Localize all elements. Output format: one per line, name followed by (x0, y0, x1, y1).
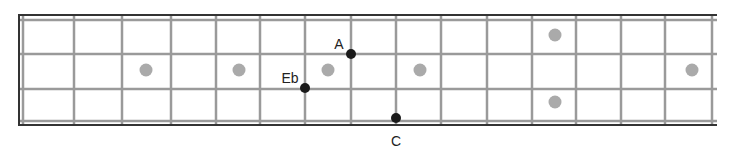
inlay-dot-icon (414, 64, 427, 77)
note-a: A (334, 36, 356, 59)
note-dot-icon (391, 113, 401, 123)
inlay-dot-icon (322, 64, 335, 77)
note-label: A (334, 36, 344, 52)
fret-lines (23, 15, 712, 125)
note-dot-icon (300, 83, 310, 93)
inlay-dot-icon (686, 64, 699, 77)
fretboard-diagram: AEbC (0, 0, 731, 155)
fretboard-border (19, 14, 717, 126)
inlay-markers (140, 29, 699, 109)
note-label: C (391, 133, 401, 149)
inlay-dot-icon (233, 64, 246, 77)
string-lines (19, 20, 717, 121)
note-c: C (391, 113, 401, 149)
inlay-dot-icon (140, 64, 153, 77)
inlay-dot-icon (549, 96, 562, 109)
inlay-dot-icon (549, 29, 562, 42)
note-label: Eb (281, 70, 298, 86)
note-dot-icon (346, 49, 356, 59)
